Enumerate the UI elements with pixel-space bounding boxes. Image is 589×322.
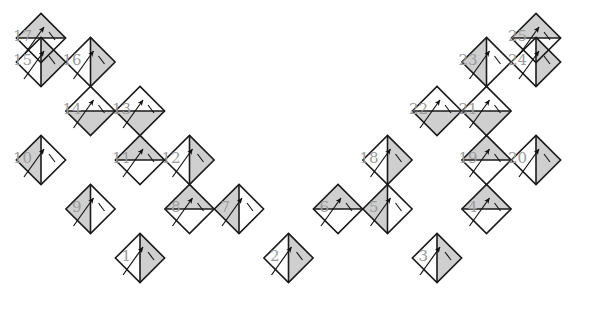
tile-label-12: 12 — [161, 149, 180, 167]
tile-label-15: 15 — [13, 51, 32, 69]
tile-label-24: 24 — [508, 51, 527, 69]
tile-label-6: 6 — [319, 198, 329, 216]
tile-label-16: 16 — [62, 51, 81, 69]
tile-label-23: 23 — [458, 51, 477, 69]
arrow-tick-9 — [99, 203, 105, 211]
tile-label-20: 20 — [508, 149, 527, 167]
tile-label-14: 14 — [62, 100, 81, 118]
tile-label-13: 13 — [112, 100, 131, 118]
tile-label-1: 1 — [121, 247, 131, 265]
tile-label-8: 8 — [171, 198, 181, 216]
arrow-tick-7 — [247, 203, 253, 211]
diamond-tiling-diagram: 1234567891011121314151617181920212223242… — [0, 0, 589, 322]
tile-label-3: 3 — [418, 247, 428, 265]
tile-label-4: 4 — [468, 198, 478, 216]
tile-label-17: 17 — [13, 27, 32, 45]
tile-label-5: 5 — [369, 198, 379, 216]
tile-label-18: 18 — [359, 149, 378, 167]
tile-label-19: 19 — [458, 149, 477, 167]
arrow-tick-23 — [495, 56, 501, 64]
tile-label-2: 2 — [270, 247, 280, 265]
tile-label-9: 9 — [72, 198, 82, 216]
tile-label-10: 10 — [13, 149, 32, 167]
arrow-tick-5 — [396, 203, 402, 211]
tile-label-11: 11 — [112, 149, 131, 167]
tile-label-7: 7 — [220, 198, 230, 216]
tile-label-25: 25 — [508, 27, 527, 45]
arrow-tick-10 — [49, 154, 55, 162]
tile-label-22: 22 — [409, 100, 428, 118]
tile-label-21: 21 — [458, 100, 477, 118]
figure-root: 1234567891011121314151617181920212223242… — [0, 0, 589, 322]
